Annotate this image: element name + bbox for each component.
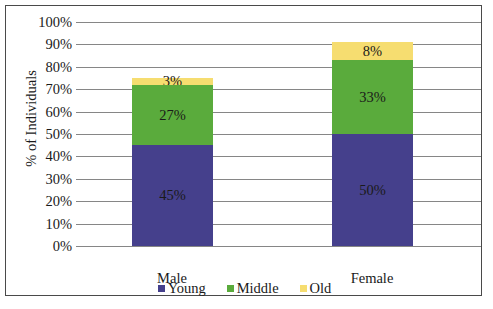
- bar-segment-value-label: 33%: [359, 90, 386, 105]
- bar-segment-value-label: 27%: [159, 108, 186, 123]
- bar-segment-old[interactable]: 8%: [332, 42, 413, 60]
- chart-legend: YoungMiddleOld: [6, 281, 483, 296]
- y-axis-tick-label: 10%: [12, 216, 72, 231]
- legend-swatch-middle: [227, 285, 234, 292]
- legend-label: Middle: [237, 281, 279, 296]
- gridline: [76, 246, 481, 247]
- legend-item-middle[interactable]: Middle: [227, 281, 279, 296]
- y-axis-tick-label: 20%: [12, 194, 72, 209]
- bar-female[interactable]: 8%33%50%: [332, 42, 413, 246]
- legend-label: Old: [310, 281, 332, 296]
- gridline: [76, 44, 481, 45]
- legend-swatch-young: [158, 285, 165, 292]
- legend-item-young[interactable]: Young: [158, 281, 206, 296]
- bar-segment-young[interactable]: 50%: [332, 134, 413, 246]
- legend-label: Young: [168, 281, 206, 296]
- y-axis-tick-labels: 0%10%20%30%40%50%60%70%80%90%100%: [6, 22, 72, 246]
- bar-segment-middle[interactable]: 33%: [332, 60, 413, 134]
- y-axis-tick-label: 80%: [12, 60, 72, 75]
- bar-segment-value-label: 50%: [359, 183, 386, 198]
- y-axis-tick-label: 30%: [12, 172, 72, 187]
- bar-segment-value-label: 8%: [363, 44, 382, 59]
- plot-area: 3%27%45%Male8%33%50%Female: [76, 22, 481, 246]
- y-axis-tick-label: 70%: [12, 82, 72, 97]
- y-axis-tick-label: 40%: [12, 149, 72, 164]
- y-axis-tick-label: 60%: [12, 104, 72, 119]
- bar-male[interactable]: 3%27%45%: [132, 78, 213, 246]
- gridline: [76, 67, 481, 68]
- bar-segment-middle[interactable]: 27%: [132, 85, 213, 145]
- y-axis-tick-label: 0%: [12, 239, 72, 254]
- legend-swatch-old: [300, 285, 307, 292]
- y-axis-tick-label: 50%: [12, 127, 72, 142]
- bar-segment-value-label: 45%: [159, 188, 186, 203]
- bar-segment-old[interactable]: 3%: [132, 78, 213, 85]
- y-axis-tick-label: 100%: [12, 15, 72, 30]
- gridline: [76, 22, 481, 23]
- y-axis-tick-label: 90%: [12, 37, 72, 52]
- chart-frame: % of Individuals 0%10%20%30%40%50%60%70%…: [5, 5, 482, 296]
- legend-item-old[interactable]: Old: [300, 281, 332, 296]
- bar-segment-young[interactable]: 45%: [132, 145, 213, 246]
